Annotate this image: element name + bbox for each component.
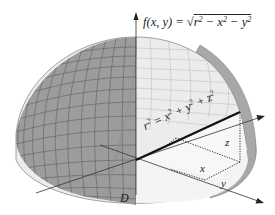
x-axis-arrowhead bbox=[256, 198, 265, 204]
hemisphere-graphic bbox=[0, 0, 275, 215]
function-label: f(x, y) = √r2 − x2 − y2 bbox=[143, 16, 251, 29]
y-axis-arrowhead bbox=[257, 115, 266, 121]
hemisphere-diagram: f(x, y) = √r2 − x2 − y2 r2 = x2 + y2 + z… bbox=[0, 0, 275, 215]
y-label: y bbox=[221, 178, 226, 189]
x-label: x bbox=[200, 163, 205, 174]
z-label: z bbox=[225, 137, 229, 148]
region-D-label: D bbox=[120, 192, 129, 204]
z-axis-arrowhead bbox=[134, 12, 139, 20]
shaded-surface bbox=[0, 0, 140, 215]
